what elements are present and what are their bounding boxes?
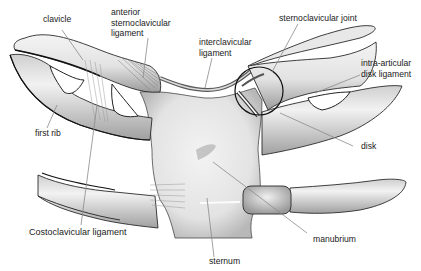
label-sternum: sternum bbox=[209, 256, 240, 267]
label-line: interclavicular bbox=[199, 37, 252, 48]
label-line: anterior bbox=[111, 7, 171, 18]
label-first-rib: first rib bbox=[35, 128, 61, 139]
left-second-rib-bone bbox=[38, 173, 158, 228]
sternoclavicular-diagram: clavicle anterior sternoclavicular ligam… bbox=[0, 0, 421, 271]
label-line: ligament bbox=[199, 48, 252, 59]
label-intra-articular-disk-ligament: intra-articular disk ligament bbox=[361, 58, 411, 79]
right-second-rib-bone bbox=[243, 179, 406, 214]
label-line: intra-articular bbox=[361, 58, 411, 69]
leader-interclavicular-ligament bbox=[205, 58, 212, 88]
label-disk: disk bbox=[361, 141, 376, 152]
label-anterior-sc-ligament: anterior sternoclavicular ligament bbox=[111, 7, 171, 39]
label-clavicle: clavicle bbox=[43, 14, 71, 25]
label-costoclavicular-ligament: Costoclavicular ligament bbox=[29, 227, 127, 238]
label-manubrium: manubrium bbox=[313, 234, 356, 245]
label-line: sternoclavicular bbox=[111, 18, 171, 29]
sternum-bone bbox=[140, 88, 262, 238]
label-line: disk ligament bbox=[361, 69, 411, 80]
label-line: ligament bbox=[111, 28, 171, 39]
label-sc-joint: sternoclavicular joint bbox=[279, 13, 357, 24]
label-interclavicular-ligament: interclavicular ligament bbox=[199, 37, 252, 58]
